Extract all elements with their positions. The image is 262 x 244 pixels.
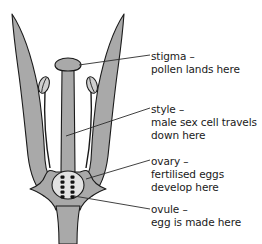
label-ovule-term: ovule – [151, 203, 241, 216]
carpel [52, 58, 84, 199]
stigma [55, 58, 81, 71]
label-stigma-line-1: pollen lands here [151, 63, 240, 76]
leader-line-ovule [74, 196, 150, 209]
label-ovary-line-2: develop here [151, 181, 224, 194]
label-style: style – male sex cell travels down here [151, 103, 257, 142]
label-ovary-line-1: fertilised eggs [151, 168, 224, 181]
label-style-line-2: down here [151, 129, 257, 142]
petal-left [12, 14, 55, 196]
label-stigma-term: stigma – [151, 50, 240, 63]
petal-right [81, 14, 124, 196]
label-ovule-line-1: egg is made here [151, 216, 241, 229]
label-ovule: ovule – egg is made here [151, 203, 241, 229]
ovary [52, 171, 84, 199]
filament-left [45, 91, 50, 168]
label-ovary: ovary – fertilised eggs develop here [151, 155, 224, 194]
flower-diagram-figure: stigma – pollen lands here style – male … [0, 0, 262, 244]
label-style-line-1: male sex cell travels [151, 116, 257, 129]
style [61, 70, 75, 172]
label-style-term: style – [151, 103, 257, 116]
stem [56, 206, 80, 244]
label-ovary-term: ovary – [151, 155, 224, 168]
label-stigma: stigma – pollen lands here [151, 50, 240, 76]
